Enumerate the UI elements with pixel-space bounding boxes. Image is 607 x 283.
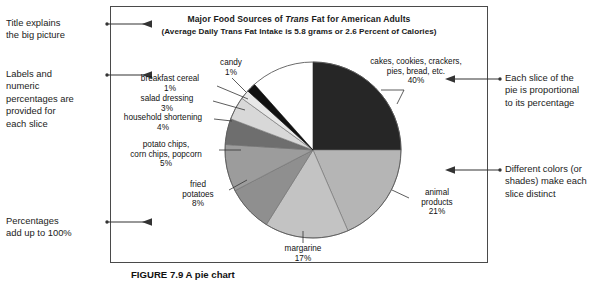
chart-title-part-1: Major Food Sources of bbox=[187, 14, 285, 24]
annotation-left-title-line2: the big picture bbox=[6, 29, 102, 41]
annotation-left-labels-line4: provided for bbox=[6, 105, 102, 117]
slice-label-animal-products-percent: 21% bbox=[406, 207, 468, 217]
slice-label-margarine: margarine 17% bbox=[266, 244, 340, 263]
slice-label-fried-potatoes-percent: 8% bbox=[170, 199, 226, 209]
chart-title-part-2: Fat for American Adults bbox=[309, 14, 411, 24]
figure-caption: FIGURE 7.9 A pie chart bbox=[131, 269, 235, 280]
chart-subtitle-part-2: Fat Intake is 5.8 grams or 2.6 Percent o… bbox=[242, 27, 436, 36]
annotation-left-labels-line3: percentages are bbox=[6, 93, 102, 105]
figure-caption-label: FIGURE 7.9 bbox=[131, 269, 183, 280]
annotation-left-title-line1: Title explains bbox=[6, 17, 102, 29]
annotation-right-colors: Different colors (or shades) make each s… bbox=[505, 163, 605, 200]
annotation-right-proportional-line1: Each slice of the bbox=[505, 72, 605, 84]
pie-chart bbox=[224, 60, 404, 242]
annotation-left-percentages-line2: add up to 100% bbox=[6, 227, 102, 239]
annotation-right-proportional: Each slice of the pie is proportional to… bbox=[505, 72, 605, 109]
slice-label-candy-text: candy bbox=[200, 58, 262, 68]
slice-label-animal-products-line1: animal bbox=[406, 188, 468, 198]
slice-label-salad-dressing-percent: 3% bbox=[122, 104, 212, 114]
annotation-right-colors-line3: slice distinct bbox=[505, 188, 605, 200]
slice-label-potato-chips: potato chips, corn chips, popcorn 5% bbox=[114, 140, 218, 169]
slice-label-fried-potatoes-line1: fried bbox=[170, 180, 226, 190]
slice-label-household-shortening: household shortening 4% bbox=[112, 113, 214, 132]
slice-label-breakfast-cereal-percent: 1% bbox=[124, 84, 216, 94]
slice-label-breakfast-cereal-text: breakfast cereal bbox=[124, 74, 216, 84]
slice-label-salad-dressing-text: salad dressing bbox=[122, 94, 212, 104]
annotation-left-labels-line1: Labels and bbox=[6, 68, 102, 80]
slice-label-animal-products-line2: products bbox=[406, 198, 468, 208]
annotation-left-labels: Labels and numeric percentages are provi… bbox=[6, 68, 102, 130]
figure-stage: Major Food Sources of Trans Fat for Amer… bbox=[0, 0, 607, 283]
slice-label-household-shortening-text: household shortening bbox=[112, 113, 214, 123]
slice-label-household-shortening-percent: 4% bbox=[112, 123, 214, 133]
annotation-right-colors-line2: shades) make each bbox=[505, 175, 605, 187]
slice-label-animal-products: animal products 21% bbox=[406, 188, 468, 217]
slice-label-potato-chips-percent: 5% bbox=[114, 159, 218, 169]
annotation-right-proportional-line3: to its percentage bbox=[505, 97, 605, 109]
slice-label-salad-dressing: salad dressing 3% bbox=[122, 94, 212, 113]
slice-label-cakes-cookies-line2: pies, bread, etc. bbox=[351, 67, 481, 77]
chart-title-italic: Trans bbox=[285, 14, 309, 24]
chart-subtitle: (Average Daily Trans Fat Intake is 5.8 g… bbox=[112, 26, 486, 37]
slice-label-potato-chips-line2: corn chips, popcorn bbox=[114, 150, 218, 160]
annotation-left-labels-line5: each slice bbox=[6, 118, 102, 130]
slice-label-fried-potatoes-line2: potatoes bbox=[170, 190, 226, 200]
slice-label-cakes-cookies-line1: cakes, cookies, crackers, bbox=[351, 57, 481, 67]
annotation-left-percentages-line1: Percentages bbox=[6, 215, 102, 227]
slice-label-potato-chips-line1: potato chips, bbox=[114, 140, 218, 150]
figure-caption-text: A pie chart bbox=[186, 269, 235, 280]
slice-label-fried-potatoes: fried potatoes 8% bbox=[170, 180, 226, 209]
slice-label-breakfast-cereal: breakfast cereal 1% bbox=[124, 74, 216, 93]
chart-subtitle-italic: Trans bbox=[220, 27, 242, 36]
chart-title: Major Food Sources of Trans Fat for Amer… bbox=[112, 14, 486, 25]
pie-svg bbox=[224, 60, 404, 242]
slice-label-margarine-text: margarine bbox=[266, 244, 340, 254]
chart-subtitle-part-1: (Average Daily bbox=[161, 27, 220, 36]
annotation-left-labels-line2: numeric bbox=[6, 80, 102, 92]
slice-label-cakes-cookies: cakes, cookies, crackers, pies, bread, e… bbox=[351, 57, 481, 86]
annotation-left-title: Title explains the big picture bbox=[6, 17, 102, 42]
annotation-left-percentages: Percentages add up to 100% bbox=[6, 215, 102, 240]
annotation-right-proportional-line2: pie is proportional bbox=[505, 84, 605, 96]
slice-label-cakes-cookies-percent: 40% bbox=[351, 76, 481, 86]
slice-label-margarine-percent: 17% bbox=[266, 254, 340, 264]
annotation-right-colors-line1: Different colors (or bbox=[505, 163, 605, 175]
